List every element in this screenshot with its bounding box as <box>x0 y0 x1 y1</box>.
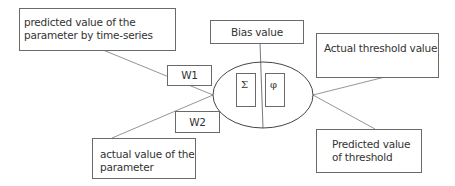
output-predicted-threshold-label: Predicted value of threshold <box>332 138 417 164</box>
output-actual-threshold-box: Actual threshold value <box>316 33 439 78</box>
input-predicted-parameter-box: predicted value of the parameter by time… <box>19 8 176 51</box>
bias-label: Bias value <box>231 26 283 39</box>
weight-w2-box: W2 <box>175 111 220 133</box>
input-actual-parameter-box: actual value of the parameter <box>92 138 196 179</box>
summation-box: Σ <box>236 73 256 107</box>
output-actual-threshold-label: Actual threshold value <box>324 42 438 55</box>
input-actual-parameter-label: actual value of the parameter <box>100 148 195 174</box>
bias-line <box>260 43 263 128</box>
activation-box: φ <box>265 73 285 107</box>
activation-symbol: φ <box>270 79 277 90</box>
weight-w1-box: W1 <box>167 65 212 86</box>
edge-neuron-to-actual-threshold <box>313 77 385 95</box>
edge-neuron-to-predicted-threshold <box>313 95 375 129</box>
input-predicted-parameter-label: predicted value of the parameter by time… <box>24 16 175 42</box>
weight-w2-label: W2 <box>189 116 206 129</box>
weight-w1-label: W1 <box>181 69 198 82</box>
output-predicted-threshold-box: Predicted value of threshold <box>316 129 422 173</box>
summation-symbol: Σ <box>241 79 248 90</box>
bias-box: Bias value <box>210 20 304 44</box>
